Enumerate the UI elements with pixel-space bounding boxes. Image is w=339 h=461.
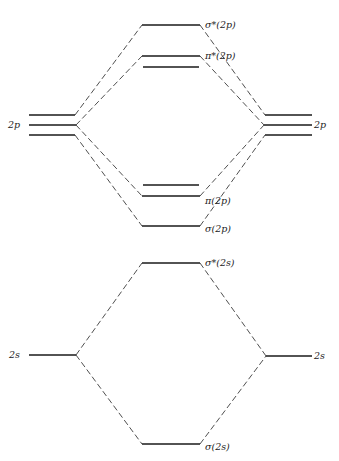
label-pi-2p: π(2p) — [204, 195, 231, 206]
label-left-2p: 2p — [7, 119, 20, 130]
label-right-2p: 2p — [313, 119, 326, 130]
label-sigma-star-2p: σ*(2p) — [205, 19, 236, 30]
left-2p-levels — [29, 115, 76, 135]
correlation-lines-2s — [76, 263, 266, 444]
right-2p-levels — [264, 115, 312, 135]
label-sigma-2s: σ(2s) — [205, 441, 230, 452]
label-sigma-2p: σ(2p) — [205, 223, 231, 234]
label-left-2s: 2s — [8, 349, 20, 360]
mo-diagram: 2p 2p σ*(2p) π*(2p) π(2p) σ(2p) σ*(2s) 2… — [0, 0, 339, 461]
label-pi-star-2p: π*(2p) — [204, 50, 236, 61]
pi-2p-levels — [142, 185, 200, 196]
label-sigma-star-2s: σ*(2s) — [205, 257, 235, 268]
label-right-2s: 2s — [313, 350, 325, 361]
pi-star-2p-levels — [142, 56, 200, 67]
